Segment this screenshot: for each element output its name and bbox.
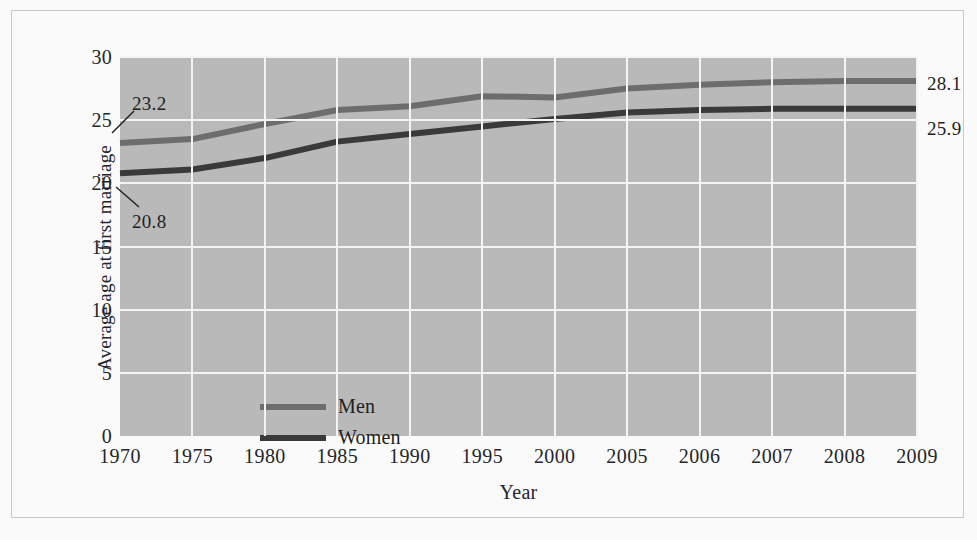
y-tick-label: 15 [68,237,112,257]
gridline-vertical [554,57,556,436]
gridline-vertical [844,57,846,436]
x-axis-ticks: 1970197519801985199019952000200520062007… [120,445,917,481]
legend-swatch-women [260,435,326,441]
legend-item-men[interactable]: Men [260,391,490,422]
gridline-vertical [771,57,773,436]
annotation-men-end-value: 28.1 [927,73,961,95]
y-tick-label: 10 [68,300,112,320]
annotation-men-start-value: 23.2 [132,93,166,115]
gridline-vertical [191,57,193,436]
y-tick-label: 30 [68,47,112,67]
gridline-horizontal [120,246,917,248]
chart-figure: Average age at first marriage 0510152025… [0,0,977,540]
plot-area: MenWomen [120,57,917,436]
series-line-men [120,81,917,143]
gridline-horizontal [120,56,917,58]
gridline-horizontal [120,119,917,121]
gridline-vertical [409,57,411,436]
legend: MenWomen [260,391,490,453]
gridline-vertical [481,57,483,436]
gridline-vertical [264,57,266,436]
x-axis-title: Year [120,481,917,504]
y-tick-label: 5 [68,363,112,383]
legend-swatch-men [260,404,326,410]
x-tick-label: 2009 [872,445,962,467]
gridline-vertical [699,57,701,436]
y-axis-ticks: 051015202530 [54,57,112,436]
legend-label: Men [338,395,375,418]
gridline-vertical [336,57,338,436]
y-tick-label: 25 [68,110,112,130]
y-tick-label: 20 [68,173,112,193]
annotation-women-end-value: 25.9 [927,118,961,140]
gridline-horizontal [120,309,917,311]
gridline-vertical [916,57,918,436]
figure-frame: Average age at first marriage 0510152025… [11,10,964,518]
annotation-women-start-value: 20.8 [132,211,166,233]
gridline-horizontal [120,372,917,374]
gridline-vertical [626,57,628,436]
y-tick-label: 0 [68,426,112,446]
gridline-horizontal [120,182,917,184]
